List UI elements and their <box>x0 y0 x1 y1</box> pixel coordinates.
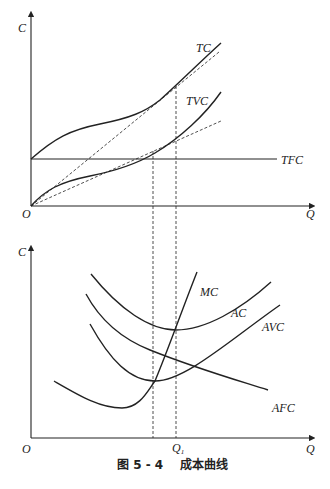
mc-label: MC <box>199 285 219 299</box>
tvc-ray <box>31 121 221 206</box>
bottom-origin-label: O <box>22 442 31 456</box>
ac-label: AC <box>230 306 247 320</box>
tc-ray <box>31 52 219 206</box>
tvc-curve <box>31 92 221 206</box>
tvc-label: TVC <box>186 94 209 108</box>
top-origin-label: O <box>22 207 31 221</box>
top-x-label: Q <box>306 207 315 221</box>
bottom-x-label: Q <box>306 442 315 456</box>
top-y-label: C <box>18 21 27 35</box>
bottom-y-label: C <box>18 245 27 259</box>
mc-curve <box>54 272 197 408</box>
avc-label: AVC <box>261 320 285 334</box>
afc-label: AFC <box>271 401 296 415</box>
avc-curve <box>90 305 280 381</box>
ac-curve <box>91 274 271 330</box>
figure-caption: 图 5 - 4 成本曲线 <box>117 457 228 472</box>
q1-label: Q1 <box>172 441 184 456</box>
cost-curves-diagram: C O Q TC TVC TFC C O Q Q1 MC AC AVC AFC … <box>0 0 330 489</box>
tfc-label: TFC <box>281 153 304 167</box>
tc-label: TC <box>196 41 212 55</box>
